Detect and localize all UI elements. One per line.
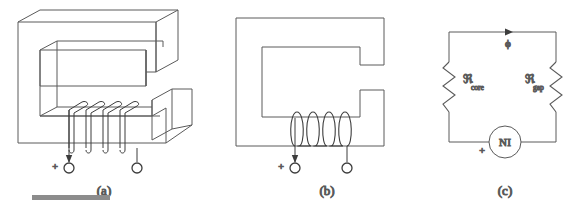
figure-svg: + (a) (0, 0, 580, 206)
figure-container: + (a) (0, 0, 580, 206)
core-reluctance-subscript: core (471, 83, 485, 92)
coil-a-turn-4 (120, 101, 139, 153)
core-reluctance-resistor (443, 62, 455, 112)
caption-b: (b) (319, 183, 334, 198)
mmf-polarity-plus: + (479, 145, 485, 156)
core-3d-bottom-seam (152, 108, 166, 116)
coil-a-turn-2 (86, 101, 105, 153)
mmf-source-label: NI (499, 136, 511, 148)
core-3d-upper-gap-face (146, 22, 156, 72)
core-2d-window-top (262, 47, 360, 65)
flux-arrow-icon (505, 28, 513, 35)
terminal-b-positive (290, 163, 300, 173)
gap-reluctance-subscript: gap (533, 83, 544, 92)
gap-reluctance-resistor (550, 62, 562, 112)
flux-label: ϕ (505, 37, 511, 49)
polarity-plus-a: + (52, 161, 58, 172)
current-arrow-b (292, 155, 298, 163)
core-3d-upper-arm-inner (40, 50, 146, 86)
core-3d-top-face (18, 10, 178, 22)
current-arrow-a (66, 155, 72, 163)
core-3d-window-top-recede (40, 41, 163, 50)
polarity-plus-b: + (278, 161, 284, 172)
scale-bar (32, 195, 110, 200)
core-3d-top-right-cap (156, 60, 178, 72)
panel-a: + (a) (18, 10, 192, 198)
coil-a (69, 101, 139, 153)
terminal-a-positive (64, 163, 74, 173)
caption-c: (c) (498, 183, 512, 198)
core-2d-outer-outline (236, 18, 384, 65)
panel-b: + (b) (236, 18, 384, 198)
panel-c: ϕ ℜ core ℜ gap NI + (c) (443, 28, 562, 198)
core-3d-window-inner-left-join (40, 107, 57, 116)
terminal-a-negative (132, 163, 142, 173)
coil-a-turn-3 (103, 101, 122, 153)
core-3d-window-outline (40, 50, 160, 116)
terminal-b-negative (342, 163, 352, 173)
core-3d-lower-block-bottom (152, 129, 172, 140)
coil-a-turn-1 (69, 101, 88, 153)
